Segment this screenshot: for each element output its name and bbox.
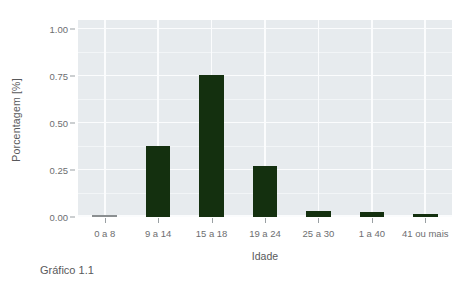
y-axis-title-text: Porcentagem [%] [10,78,22,162]
x-axis-tick-mark [425,218,426,223]
y-axis-title: Porcentagem [%] [8,20,24,220]
gridline-vertical [424,20,426,217]
y-axis-tick-mark [70,123,75,124]
chart-figure: Porcentagem [%] Idade Gráfico 1.1 0.000.… [0,0,462,283]
x-axis-tick-label: 0 a 8 [94,228,115,239]
gridline-vertical [371,20,373,217]
x-axis-tick-mark [318,218,319,223]
x-axis-tick-mark [212,218,213,223]
bar [413,214,438,217]
x-axis-tick-mark [372,218,373,223]
x-axis-tick-label: 25 a 30 [303,228,335,239]
x-axis-tick-mark [105,218,106,223]
x-axis-tick-mark [158,218,159,223]
gridline-vertical [318,20,320,217]
y-axis-tick-mark [70,29,75,30]
y-axis-tick-label: 0.50 [24,118,68,129]
y-axis-tick-mark [70,170,75,171]
y-axis-tick-mark [70,217,75,218]
y-axis-tick-label: 0.25 [24,165,68,176]
x-axis-tick-mark [265,218,266,223]
bar [199,75,224,217]
x-axis-tick-label: 19 a 24 [249,228,281,239]
x-axis-tick-label: 9 a 14 [145,228,171,239]
x-axis-tick-label: 15 a 18 [196,228,228,239]
bar [92,215,117,217]
x-axis-title: Idade [78,250,452,262]
y-axis-tick-label: 1.00 [24,24,68,35]
bar [306,211,331,217]
bar [360,212,385,217]
y-axis-tick-label: 0.00 [24,212,68,223]
y-axis-tick-mark [70,76,75,77]
bar [253,166,278,217]
plot-area [78,20,452,217]
figure-caption: Gráfico 1.1 [40,264,94,276]
gridline-vertical [104,20,106,217]
x-axis-tick-label: 41 ou mais [402,228,448,239]
x-axis-tick-label: 1 a 40 [359,228,385,239]
bar [146,146,171,217]
y-axis-tick-label: 0.75 [24,71,68,82]
